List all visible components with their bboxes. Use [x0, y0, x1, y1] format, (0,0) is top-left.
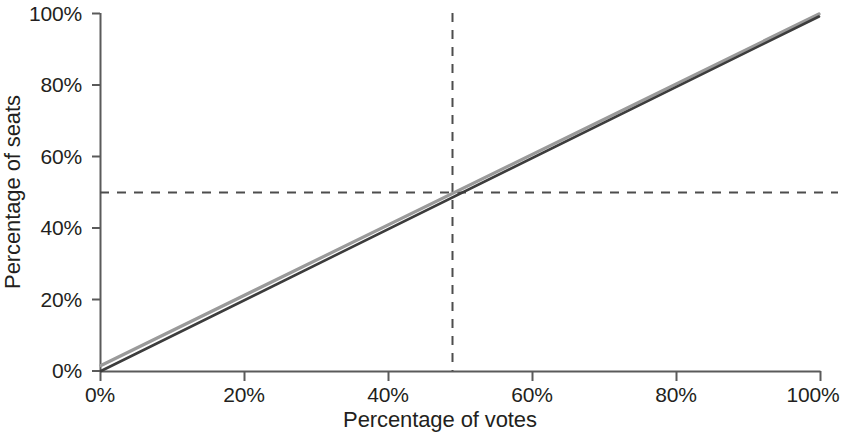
y-tick-label-40: 40% [20, 216, 82, 240]
y-tick-label-100: 100% [20, 2, 82, 26]
x-tick-label-40: 40% [367, 383, 408, 407]
y-tick-label-0: 0% [20, 359, 82, 383]
series-line-proportional-lower [101, 17, 819, 372]
y-axis-ticks [92, 14, 100, 372]
x-axis-title: Percentage of votes [343, 407, 537, 433]
x-tick-label-80: 80% [655, 383, 696, 407]
chart-plot-area [0, 0, 841, 441]
x-tick-label-100: 100% [787, 383, 840, 407]
y-tick-label-60: 60% [20, 145, 82, 169]
x-tick-label-60: 60% [511, 383, 552, 407]
chart-container: 100% 80% 60% 40% 20% 0% 0% 20% 40% 60% 8… [0, 0, 841, 441]
y-tick-label-20: 20% [20, 288, 82, 312]
y-axis-title: Percentage of seats [0, 95, 26, 289]
x-tick-label-0: 0% [85, 383, 115, 407]
x-tick-label-20: 20% [223, 383, 264, 407]
series-line-proportional-upper [101, 14, 819, 366]
y-tick-label-80: 80% [20, 73, 82, 97]
